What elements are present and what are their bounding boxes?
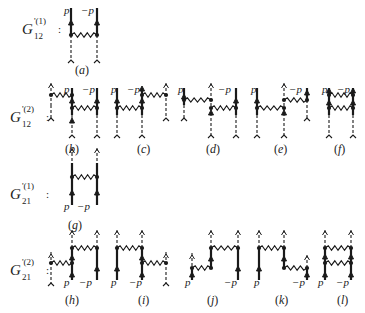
vertex-dot	[95, 175, 99, 179]
fork-icon	[139, 135, 145, 138]
vertex-dot	[305, 266, 309, 270]
momentum-label: −p	[218, 83, 231, 95]
momentum-label: −p	[337, 83, 350, 95]
momentum-label: −p	[224, 276, 237, 288]
wiggly-line	[211, 106, 236, 110]
fork-icon	[326, 135, 332, 138]
arrow-up-icon	[95, 98, 100, 103]
green-function-symbol: G	[10, 109, 21, 125]
vertex-dot	[351, 93, 355, 97]
wiggly-line	[117, 246, 142, 250]
wiggly-line	[117, 106, 142, 110]
vertex-dot	[70, 106, 74, 110]
superscript: '(1)	[22, 181, 34, 191]
arrow-up-icon	[305, 272, 310, 277]
fork-icon	[304, 118, 310, 121]
fork-icon	[163, 118, 169, 121]
wiggly-line	[142, 93, 166, 97]
arrow-up-icon	[70, 272, 75, 277]
vertex-dot	[323, 246, 327, 250]
fork-icon	[181, 118, 187, 121]
wiggly-line	[192, 266, 211, 270]
colon: :	[46, 188, 49, 200]
arrow-up-icon	[70, 190, 75, 195]
momentum-label: p	[64, 276, 70, 288]
vertex-dot	[49, 261, 53, 265]
momentum-label: −p	[336, 276, 349, 288]
wiggly-line	[325, 261, 351, 265]
vertex-dot	[70, 261, 74, 265]
vertex-dot	[115, 106, 119, 110]
arrow-up-icon	[209, 256, 214, 261]
momentum-label: −p	[77, 200, 90, 212]
vertex-dot	[69, 33, 73, 37]
vertex-dot	[70, 93, 74, 97]
subscript: 21	[22, 196, 31, 206]
momentum-label: −p	[292, 276, 305, 288]
vertex-dot	[209, 98, 213, 102]
vertex-dot	[349, 261, 353, 265]
caption: (g)	[68, 218, 82, 233]
subscript: 12	[34, 31, 43, 41]
vertex-dot	[140, 106, 144, 110]
caption: (d)	[206, 142, 220, 157]
arrow-up-icon	[70, 255, 75, 260]
vertex-dot	[255, 106, 259, 110]
caption: (h)	[65, 293, 79, 308]
momentum-label: −p	[289, 83, 302, 95]
momentum-label: −p	[82, 83, 95, 95]
fork-icon	[233, 135, 239, 138]
caption: (c)	[137, 142, 150, 157]
fork-icon	[69, 135, 75, 138]
fork-icon	[48, 283, 54, 286]
vertex-dot	[140, 261, 144, 265]
wiggly-line	[259, 246, 284, 250]
vertex-dot	[95, 246, 99, 250]
arrow-up-icon	[140, 255, 145, 260]
colon: :	[46, 264, 49, 276]
arrow-up-icon	[257, 266, 262, 271]
caption: (f)	[334, 142, 345, 157]
colon: :	[58, 23, 61, 35]
arrow-up-icon	[351, 88, 356, 93]
row-label-g12-2: G'(2)12:	[10, 109, 21, 126]
caption: (k)	[275, 293, 288, 308]
wiggly-line	[211, 246, 238, 250]
arrow-up-icon	[140, 86, 145, 91]
vertex-dot	[282, 246, 286, 250]
arrow-up-icon	[305, 90, 310, 95]
fork-icon	[94, 135, 100, 138]
arrow-up-icon	[140, 98, 145, 103]
vertex-dot	[190, 266, 194, 270]
wiggly-line	[142, 261, 166, 265]
caption: (l)	[337, 293, 348, 308]
momentum-label: p	[64, 83, 70, 95]
arrow-up-icon	[349, 254, 354, 259]
vertex-dot	[49, 93, 53, 97]
arrow-up-icon	[115, 266, 120, 271]
arrow-up-icon	[95, 190, 100, 195]
vertex-dot	[115, 246, 119, 250]
momentum-label: p	[178, 83, 184, 95]
arrow-up-icon	[351, 100, 356, 105]
momentum-label: p	[64, 4, 70, 16]
vertex-dot	[323, 261, 327, 265]
green-function-symbol: G	[10, 262, 21, 278]
fork-icon	[114, 135, 120, 138]
wiggly-line	[72, 175, 97, 179]
vertex-dot	[327, 106, 331, 110]
row-label-g21-1: G'(1)21:	[10, 186, 21, 203]
fork-icon	[94, 60, 100, 63]
momentum-label: p	[322, 83, 328, 95]
momentum-label: p	[64, 200, 70, 212]
momentum-label: p	[185, 276, 191, 288]
momentum-label: −p	[79, 276, 92, 288]
subscript: 21	[22, 272, 31, 282]
momentum-label: −p	[129, 276, 142, 288]
vertex-dot	[95, 33, 99, 37]
caption: (b)	[65, 142, 79, 157]
momentum-label: −p	[127, 83, 140, 95]
vertex-dot	[70, 246, 74, 250]
row-label-g21-2: G'(2)21:	[10, 262, 21, 279]
green-function-symbol: G	[22, 21, 33, 37]
